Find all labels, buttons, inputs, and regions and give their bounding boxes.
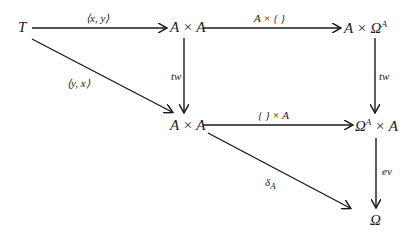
node-OmegaAxA: ΩA × A [355, 118, 398, 134]
node-T: T [18, 20, 26, 35]
arrow-T-to-AxA-mid [32, 39, 172, 112]
node-Omega: Ω [370, 213, 381, 228]
label-yx: ⟨y, x⟩ [67, 78, 90, 89]
arrow-delta [208, 133, 350, 208]
label-tw-left: tw [171, 71, 181, 82]
label-delta: δA [265, 177, 276, 191]
node-AxOmegaA-base: A × Ω [344, 20, 381, 36]
label-xy: ⟨x, y⟩ [86, 13, 109, 24]
node-AxA-top: A × A [170, 20, 205, 35]
node-OmegaAxA-base: Ω [355, 118, 366, 134]
label-braces-times-A: { } × A [258, 110, 289, 121]
node-AxA-mid: A × A [170, 118, 205, 133]
node-OmegaAxA-rest: × A [371, 118, 398, 134]
label-tw-right: tw [379, 71, 389, 82]
label-A-times-braces: A × { } [254, 13, 285, 24]
node-AxOmegaA: A × ΩA [344, 20, 387, 36]
label-delta-sub: A [270, 181, 276, 191]
label-ev: ev [382, 166, 392, 177]
node-AxOmegaA-sup: A [381, 19, 387, 29]
